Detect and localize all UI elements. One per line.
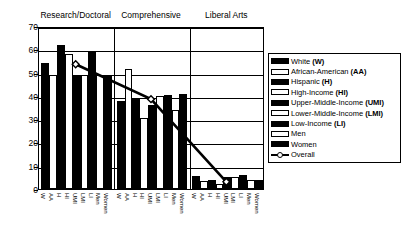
x-tick-label: LMI: [80, 193, 86, 203]
x-tick-label: Men: [95, 193, 101, 205]
legend-swatch-icon: [271, 89, 289, 95]
x-tick-label: LMI: [230, 193, 236, 203]
x-tick-label: LI: [238, 193, 244, 198]
x-tick-label: LI: [88, 193, 94, 198]
x-tick-label: Women: [179, 193, 185, 214]
legend-item-label: African-American (AA): [291, 67, 366, 76]
bar: [156, 96, 164, 189]
legend-swatch-icon: [271, 58, 289, 64]
x-tick-label: LI: [163, 193, 169, 198]
legend-item: Overall: [271, 150, 398, 160]
x-tick-label: HI: [139, 193, 145, 199]
legend-item-label: Hispanic (H): [291, 77, 332, 86]
x-tick-label: UMI: [147, 193, 153, 204]
group-title: Research/Doctoral: [38, 10, 113, 20]
legend-swatch-icon: [271, 69, 289, 75]
x-tick-label: W: [40, 193, 46, 199]
legend-swatch-icon: [271, 141, 289, 147]
chart-root: 010203040506070 Research/DoctoralCompreh…: [0, 0, 405, 246]
bar: [117, 101, 125, 189]
bar: [125, 69, 133, 189]
bar: [73, 75, 81, 189]
bar: [192, 176, 200, 189]
x-axis-labels: WAAHHIUMILMILIMenWomenWAAHHIUMILMILIMenW…: [38, 191, 264, 243]
bar: [140, 118, 148, 189]
group-title: Liberal Arts: [189, 10, 264, 20]
y-tick-label: 0: [4, 186, 38, 195]
bar: [255, 180, 263, 189]
legend-item-label: Low-Income (LI): [291, 119, 346, 128]
x-tick-label: HI: [64, 193, 70, 199]
y-axis: 010203040506070: [0, 27, 38, 190]
legend-item-label: Men: [291, 129, 306, 138]
y-tick-label: 60: [4, 46, 38, 55]
bar: [104, 75, 112, 189]
x-tick-label: Men: [246, 193, 252, 205]
legend-item: Low-Income (LI): [271, 118, 398, 128]
legend: White (W)African-American (AA)Hispanic (…: [268, 53, 401, 163]
y-tick-label: 20: [4, 139, 38, 148]
legend-item: Hispanic (H): [271, 77, 398, 87]
bar: [132, 99, 140, 189]
bar: [57, 45, 65, 189]
x-tick-label: Women: [103, 193, 109, 214]
bar: [81, 75, 89, 189]
x-tick-label: UMI: [72, 193, 78, 204]
bar: [239, 175, 247, 189]
legend-item: White (W): [271, 56, 398, 66]
x-tick-label: W: [116, 193, 122, 199]
bar: [200, 181, 208, 189]
legend-swatch-icon: [271, 151, 289, 158]
bar: [216, 184, 224, 189]
bar: [247, 180, 255, 189]
legend-item: Upper-Middle-Income (UMI): [271, 98, 398, 108]
x-tick-label: HI: [215, 193, 221, 199]
legend-item: African-American (AA): [271, 66, 398, 76]
x-tick-label: H: [132, 193, 138, 197]
bar: [96, 75, 104, 189]
x-tick-label: AA: [124, 193, 130, 201]
legend-swatch-icon: [271, 79, 289, 85]
legend-item-label: High-Income (HI): [291, 88, 348, 97]
group-divider: [190, 28, 191, 189]
legend-item-label: Overall: [291, 150, 315, 159]
legend-swatch-icon: [271, 110, 289, 116]
legend-item-label: Upper-Middle-Income (UMI): [291, 98, 384, 107]
x-tick-label: UMI: [223, 193, 229, 204]
legend-item-label: Women: [291, 140, 317, 149]
bar: [231, 177, 239, 189]
legend-swatch-icon: [271, 121, 289, 127]
gridline: [39, 28, 263, 29]
x-tick-label: H: [207, 193, 213, 197]
legend-item: Lower-Middle-Income (LMI): [271, 108, 398, 118]
bar: [88, 52, 96, 189]
legend-swatch-icon: [271, 131, 289, 137]
group-title: Comprehensive: [113, 10, 188, 20]
y-tick-label: 50: [4, 70, 38, 79]
bar: [65, 54, 73, 189]
x-tick-label: LMI: [155, 193, 161, 203]
legend-item: Women: [271, 139, 398, 149]
y-tick-label: 30: [4, 116, 38, 125]
legend-swatch-icon: [271, 100, 289, 106]
legend-item: High-Income (HI): [271, 87, 398, 97]
x-tick-label: Men: [171, 193, 177, 205]
bar: [164, 95, 172, 189]
legend-item-label: Lower-Middle-Income (LMI): [291, 109, 383, 118]
plot-area: [38, 27, 264, 190]
bar: [179, 94, 187, 189]
bar: [148, 105, 156, 189]
x-tick-label: W: [191, 193, 197, 199]
x-tick-label: H: [56, 193, 62, 197]
bar: [208, 180, 216, 189]
x-tick-label: AA: [199, 193, 205, 201]
bar: [172, 110, 180, 189]
y-tick-label: 70: [4, 23, 38, 32]
y-tick-label: 10: [4, 163, 38, 172]
x-tick-label: Women: [254, 193, 260, 214]
bar: [41, 63, 49, 189]
bar: [223, 177, 231, 189]
bar: [49, 75, 57, 189]
legend-item-label: White (W): [291, 57, 324, 66]
x-tick-label: AA: [48, 193, 54, 201]
